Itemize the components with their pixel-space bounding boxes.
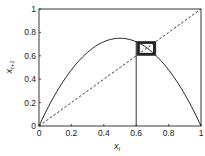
x-tick-label: 0.4	[98, 128, 110, 138]
y-tick-label: 1	[31, 4, 36, 14]
plot-area	[39, 9, 201, 126]
x-tick-label: 0.6	[130, 128, 142, 138]
y-tick-label: 0.6	[24, 51, 36, 61]
identity-line	[39, 9, 201, 126]
tick-labels: 00.20.40.60.8100.20.40.60.81	[24, 4, 203, 138]
y-tick-label: 0.8	[24, 27, 36, 37]
x-tick-label: 0	[37, 128, 42, 138]
cobweb-plot: 00.20.40.60.8100.20.40.60.81 xt xt+1	[0, 0, 205, 156]
cobweb-path	[136, 42, 155, 126]
y-tick-label: 0.4	[24, 74, 36, 84]
y-tick-label: 0.2	[24, 98, 36, 108]
x-tick-label: 0.2	[65, 128, 77, 138]
logistic-map-curve	[39, 38, 201, 126]
x-axis-label: xt	[113, 141, 121, 152]
y-axis-label: xt+1	[4, 60, 15, 74]
x-tick-label: 1	[199, 128, 204, 138]
x-tick-label: 0.8	[163, 128, 175, 138]
y-tick-label: 0	[31, 121, 36, 131]
